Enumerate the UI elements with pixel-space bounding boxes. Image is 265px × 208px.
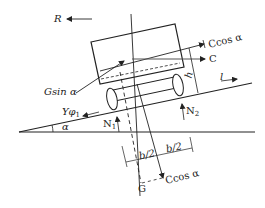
- ccos-top-arrow: [100, 44, 204, 71]
- n1-arrow: [117, 117, 119, 132]
- diagram-canvas: [0, 0, 265, 208]
- label-yphi: Yφ1: [62, 107, 80, 119]
- b-dim-tick-right: [190, 137, 193, 152]
- angle-arc: [52, 125, 53, 132]
- label-n2-sub: 2: [195, 110, 199, 118]
- label-gsin-alpha: Gsin α: [44, 87, 77, 97]
- l-arrow: [221, 79, 237, 81]
- label-n1-sub: 1: [112, 123, 116, 131]
- body-dashed-line: [101, 63, 180, 79]
- h-dim-line: [189, 48, 198, 93]
- label-n1-main: N: [103, 118, 112, 129]
- ccos-line-bottom: [137, 84, 163, 178]
- label-n2-main: N: [186, 105, 195, 116]
- rear-wheel: [105, 87, 119, 111]
- label-yphi-sub: 1: [76, 111, 80, 119]
- gsin-arrow: [76, 61, 124, 93]
- n2-arrow: [182, 104, 184, 120]
- label-c: C: [209, 54, 217, 64]
- label-n1: N1: [103, 119, 116, 131]
- label-l: l: [220, 72, 223, 82]
- label-r: R: [54, 14, 62, 24]
- label-yphi-main: Yφ: [62, 106, 76, 117]
- b-dim-tick-left: [122, 146, 127, 167]
- label-n2: N2: [186, 106, 199, 118]
- label-alpha: α: [62, 122, 69, 132]
- vehicle-body: [91, 24, 184, 84]
- label-g: G: [138, 184, 146, 194]
- slope-force-diagram: R Ccos α C h l Gsin α Yφ1 α N1 N2 b/2 b/…: [0, 0, 265, 208]
- chassis-lower: [115, 87, 181, 101]
